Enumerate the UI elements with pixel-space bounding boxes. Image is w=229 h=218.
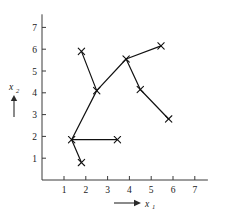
y-tick-label: 3: [32, 110, 37, 120]
data-point-marker: [78, 48, 84, 54]
graph-edges: [72, 46, 169, 163]
axes: [42, 14, 208, 180]
x-axis-label-subscript: 1: [152, 203, 155, 210]
y-tick-label: 1: [32, 154, 37, 164]
data-point-marker: [137, 86, 143, 92]
x-tick-label: 3: [105, 185, 110, 195]
y-axis-tick-labels: 1234567: [32, 23, 37, 164]
graph-edge: [140, 90, 168, 119]
y-axis-arrow-head: [11, 95, 17, 101]
scatter-plot-figure: 1234567 1234567 x 1 x 2: [0, 0, 229, 218]
graph-edge: [126, 59, 140, 90]
y-tick-label: 6: [32, 45, 37, 55]
x-axis-label: x: [144, 199, 150, 209]
x-tick-label: 7: [192, 185, 197, 195]
x-tick-label: 2: [83, 185, 88, 195]
graph-edge: [97, 59, 126, 91]
x-axis-arrow-head: [134, 200, 141, 206]
graph-edge: [126, 46, 161, 59]
x-tick-label: 1: [62, 185, 67, 195]
graph-edge: [81, 51, 96, 90]
x-tick-label: 6: [171, 185, 176, 195]
graph-edge: [72, 140, 82, 163]
y-tick-label: 7: [32, 23, 37, 33]
x-axis-tick-labels: 1234567: [62, 185, 198, 195]
y-axis-label-group: x 2: [8, 82, 20, 117]
axis-ticks: [42, 27, 195, 180]
graph-edge: [72, 91, 97, 140]
data-point-marker: [94, 87, 100, 93]
data-point-marker: [165, 116, 171, 122]
data-point-marker: [78, 159, 84, 165]
x-tick-label: 5: [149, 185, 154, 195]
x-axis-label-group: x 1: [114, 199, 155, 211]
y-axis-label: x: [8, 82, 14, 92]
x-tick-label: 4: [127, 185, 132, 195]
y-tick-label: 5: [32, 67, 37, 77]
y-tick-label: 2: [32, 132, 37, 142]
data-point-marker: [123, 56, 129, 62]
data-point-marker: [158, 43, 164, 49]
y-axis-label-subscript: 2: [16, 87, 20, 94]
y-tick-label: 4: [32, 88, 37, 98]
plot-canvas: 1234567 1234567 x 1 x 2: [0, 0, 229, 218]
data-points: [68, 43, 171, 166]
